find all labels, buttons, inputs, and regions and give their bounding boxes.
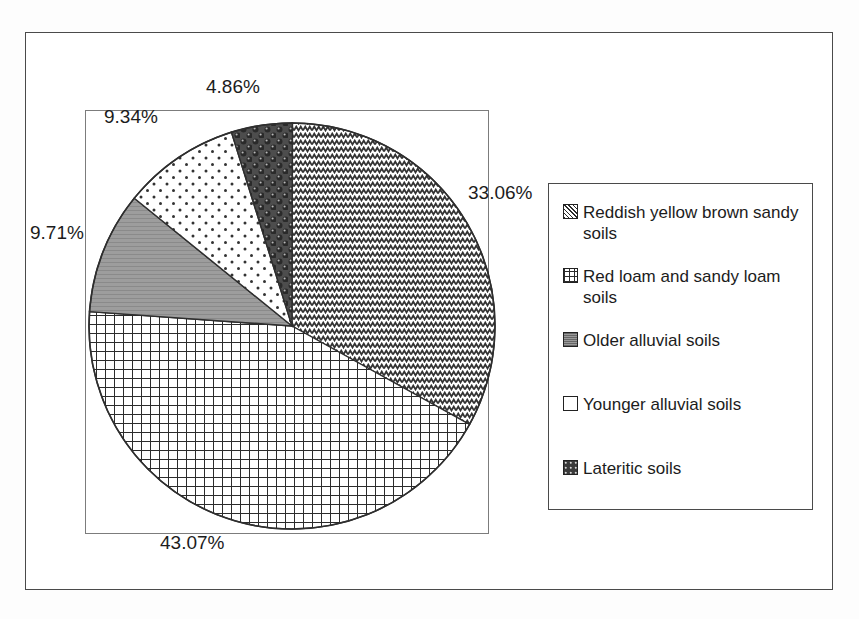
slice-label-older-alluvial: 9.71%: [30, 222, 84, 244]
slice-label-red-loam: 4.86%: [206, 76, 260, 98]
legend-item-older-alluvial[interactable]: Older alluvial soils: [563, 330, 805, 351]
legend-item-lateritic[interactable]: Lateritic soils: [563, 458, 805, 479]
legend-label: Red loam and sandy loam soils: [583, 266, 805, 308]
legend-label: Younger alluvial soils: [583, 394, 741, 415]
pie-slice-group: [89, 123, 495, 529]
slice-label-reddish-yellow-brown: 33.06%: [468, 182, 532, 204]
dark-swatch-icon: [563, 460, 578, 475]
legend-label: Lateritic soils: [583, 458, 681, 479]
pie-chart: [60, 90, 530, 560]
legend-item-younger-alluvial[interactable]: Younger alluvial soils: [563, 394, 805, 415]
legend-label: Older alluvial soils: [583, 330, 720, 351]
zigzag-swatch-icon: [563, 204, 578, 219]
legend-item-reddish-yellow-brown[interactable]: Reddish yellow brown sandy soils: [563, 202, 805, 244]
grid-swatch-icon: [563, 268, 578, 283]
white-swatch-icon: [563, 396, 578, 411]
gray-swatch-icon: [563, 332, 578, 347]
figure-canvas: 4.86% 9.34% 9.71% 33.06% 43.07% Reddish …: [0, 0, 859, 619]
legend-label: Reddish yellow brown sandy soils: [583, 202, 805, 244]
legend-item-red-loam[interactable]: Red loam and sandy loam soils: [563, 266, 805, 308]
slice-label-lateritic: 43.07%: [160, 532, 224, 554]
chart-legend: Reddish yellow brown sandy soils Red loa…: [548, 183, 813, 510]
slice-label-younger-alluvial: 9.34%: [104, 106, 158, 128]
